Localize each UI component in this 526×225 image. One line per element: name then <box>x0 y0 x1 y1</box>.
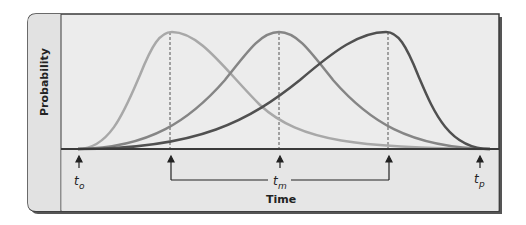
svg-text:o: o <box>79 181 85 191</box>
x-axis-label: Time <box>266 193 296 206</box>
svg-text:p: p <box>478 179 485 189</box>
pert-distribution-diagram: Probability Time t o t m t p <box>0 0 526 225</box>
svg-text:m: m <box>278 181 287 191</box>
y-axis-label: Probability <box>38 48 51 116</box>
